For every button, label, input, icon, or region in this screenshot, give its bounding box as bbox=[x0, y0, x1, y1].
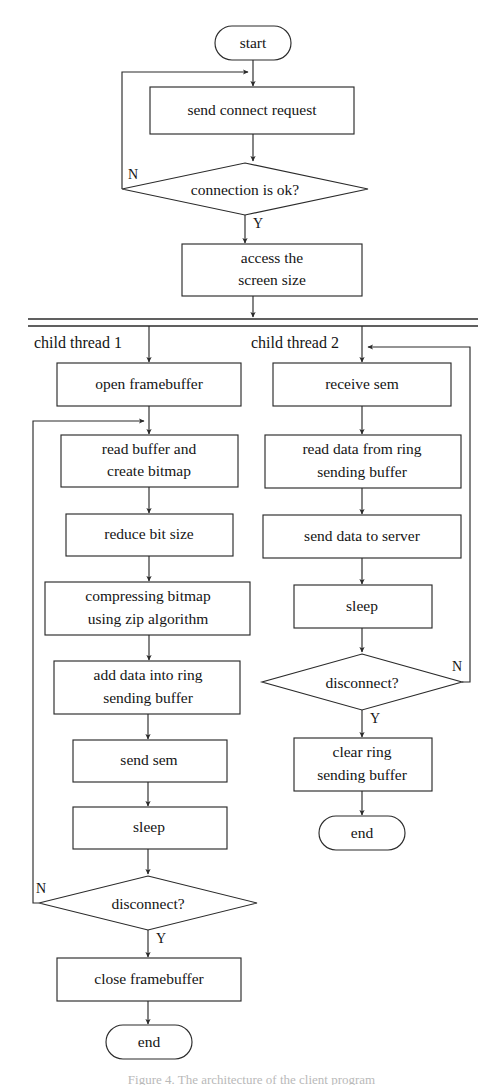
branch-label-disconnect-thread1-no: N bbox=[36, 881, 46, 896]
node-close-framebuffer-label: close framebuffer bbox=[94, 970, 204, 987]
node-end-thread2-label: end bbox=[351, 824, 374, 841]
node-send-connect-request: send connect request bbox=[150, 87, 354, 134]
node-disconnect-thread1-label: disconnect? bbox=[111, 895, 184, 912]
branch-label-disconnect-thread2-yes: Y bbox=[370, 711, 380, 726]
node-compressing-bitmap-label-2: using zip algorithm bbox=[88, 610, 209, 627]
node-start-label: start bbox=[240, 34, 267, 51]
node-access-screen-size-label-1: access the bbox=[241, 249, 304, 266]
node-connection-is-ok-label: connection is ok? bbox=[191, 181, 300, 198]
node-clear-ring-label-2: sending buffer bbox=[317, 766, 408, 783]
node-end-thread2: end bbox=[319, 816, 405, 850]
node-send-connect-request-label: send connect request bbox=[187, 101, 317, 118]
node-read-data-from-ring-sending-buffer: read data from ring sending buffer bbox=[265, 435, 461, 488]
thread2-label: child thread 2 bbox=[251, 334, 339, 351]
node-end-thread1-label: end bbox=[138, 1033, 161, 1050]
node-disconnect-thread2: disconnect? bbox=[262, 654, 462, 710]
node-send-sem-label: send sem bbox=[120, 751, 177, 768]
node-add-data-label-2: sending buffer bbox=[103, 689, 194, 706]
node-access-screen-size: access the screen size bbox=[182, 244, 362, 296]
node-compressing-bitmap: compressing bitmap using zip algorithm bbox=[45, 582, 250, 635]
node-sleep-thread1-label: sleep bbox=[133, 818, 165, 835]
node-read-buffer-create-bitmap-label-2: create bitmap bbox=[107, 462, 191, 479]
thread1-label: child thread 1 bbox=[34, 334, 122, 351]
node-reduce-bit-size: reduce bit size bbox=[66, 514, 233, 556]
node-close-framebuffer: close framebuffer bbox=[57, 958, 241, 1001]
node-send-data-to-server-label: send data to server bbox=[304, 527, 421, 544]
node-connection-is-ok: connection is ok? bbox=[122, 163, 368, 215]
figure-caption: Figure 4. The architecture of the client… bbox=[0, 1072, 503, 1085]
node-receive-sem-label: receive sem bbox=[325, 375, 399, 392]
node-receive-sem: receive sem bbox=[273, 363, 451, 406]
node-compressing-bitmap-label-1: compressing bitmap bbox=[85, 587, 211, 604]
node-add-data-label-1: add data into ring bbox=[94, 666, 203, 683]
branch-label-connection-no: N bbox=[128, 167, 138, 182]
fork-bar bbox=[28, 319, 478, 326]
branch-label-disconnect-thread1-yes: Y bbox=[156, 931, 166, 946]
node-disconnect-thread1: disconnect? bbox=[39, 876, 257, 930]
node-disconnect-thread2-label: disconnect? bbox=[325, 674, 398, 691]
node-reduce-bit-size-label: reduce bit size bbox=[104, 525, 194, 542]
node-add-data-into-ring-sending-buffer: add data into ring sending buffer bbox=[54, 661, 240, 714]
node-sleep-thread2: sleep bbox=[294, 585, 432, 628]
node-read-buffer-create-bitmap: read buffer and create bitmap bbox=[61, 435, 238, 487]
node-open-framebuffer: open framebuffer bbox=[57, 363, 241, 406]
node-send-sem: send sem bbox=[73, 740, 227, 782]
node-sleep-thread2-label: sleep bbox=[346, 597, 378, 614]
branch-label-connection-yes: Y bbox=[253, 216, 263, 231]
node-read-data-label-2: sending buffer bbox=[317, 463, 408, 480]
node-send-data-to-server: send data to server bbox=[263, 515, 461, 558]
node-read-data-label-1: read data from ring bbox=[302, 440, 421, 457]
node-clear-ring-label-1: clear ring bbox=[333, 743, 392, 760]
node-open-framebuffer-label: open framebuffer bbox=[95, 375, 204, 392]
node-clear-ring-sending-buffer: clear ring sending buffer bbox=[294, 738, 432, 791]
node-end-thread1: end bbox=[106, 1025, 192, 1059]
node-access-screen-size-label-2: screen size bbox=[238, 271, 306, 288]
node-sleep-thread1: sleep bbox=[73, 807, 227, 849]
flowchart-canvas: start send connect request connection is… bbox=[0, 0, 503, 1085]
node-start: start bbox=[215, 26, 291, 60]
node-read-buffer-create-bitmap-label-1: read buffer and bbox=[102, 440, 197, 457]
flowchart-diagram: start send connect request connection is… bbox=[0, 0, 503, 1085]
branch-label-disconnect-thread2-no: N bbox=[452, 659, 462, 674]
